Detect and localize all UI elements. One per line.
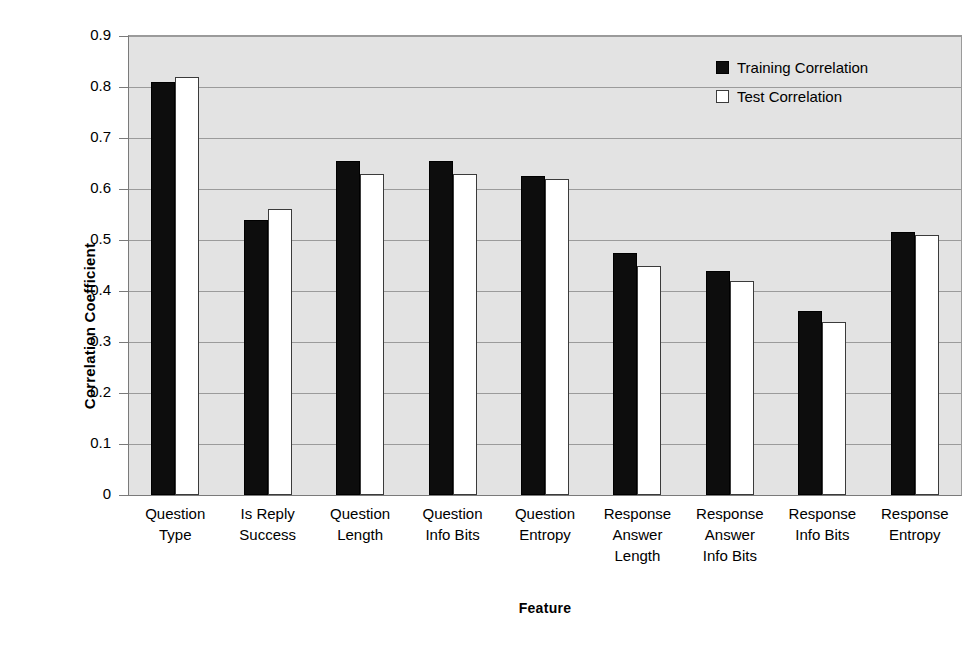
x-axis-tick-label-line: Entropy: [869, 524, 961, 545]
x-axis-tick-label: QuestionEntropy: [499, 503, 591, 545]
bar-group: [129, 36, 221, 495]
y-axis-tick-mark: [119, 189, 128, 190]
x-axis-tick-label: QuestionInfo Bits: [406, 503, 498, 545]
y-axis-tick-mark: [119, 87, 128, 88]
x-axis-tick-label-line: Question: [129, 503, 221, 524]
x-axis-tick-label-line: Length: [314, 524, 406, 545]
bar-training-correlation: [244, 220, 268, 495]
bar-training-correlation: [613, 253, 637, 495]
bar-test-correlation: [822, 322, 846, 495]
x-axis-tick-label: ResponseEntropy: [869, 503, 961, 545]
x-axis-tick-label: QuestionLength: [314, 503, 406, 545]
y-axis-tick-label: 0.1: [31, 434, 111, 451]
y-axis-tick-mark: [119, 138, 128, 139]
y-axis-tick-mark: [119, 342, 128, 343]
y-axis-tick-mark: [119, 240, 128, 241]
x-axis-tick-label-line: Answer: [591, 524, 683, 545]
y-axis-tick-label: 0.2: [31, 383, 111, 400]
y-axis-ticks: 0.90.80.70.60.50.40.30.20.10: [0, 0, 128, 652]
y-axis-tick-label: 0: [31, 485, 111, 502]
bar-test-correlation: [545, 179, 569, 495]
x-axis-tick-label-line: Type: [129, 524, 221, 545]
x-axis-title: Feature: [129, 600, 961, 616]
bar-test-correlation: [637, 266, 661, 496]
bar-training-correlation: [336, 161, 360, 495]
x-axis-tick-label-line: Question: [314, 503, 406, 524]
x-axis-tick-label-line: Answer: [684, 524, 776, 545]
legend: Training CorrelationTest Correlation: [716, 53, 948, 111]
bar-group: [591, 36, 683, 495]
legend-item-label: Test Correlation: [737, 88, 842, 105]
x-axis-tick-label: ResponseAnswerLength: [591, 503, 683, 566]
y-axis-tick-label: 0.5: [31, 230, 111, 247]
bar-training-correlation: [798, 311, 822, 495]
bar-chart: Correlation Coefficient 0.90.80.70.60.50…: [0, 0, 973, 652]
legend-item-label: Training Correlation: [737, 59, 868, 76]
bar-group: [221, 36, 313, 495]
bar-test-correlation: [453, 174, 477, 495]
x-axis-tick-label-line: Response: [591, 503, 683, 524]
x-axis-tick-label-line: Length: [591, 545, 683, 566]
bar-group: [499, 36, 591, 495]
y-axis-tick-label: 0.4: [31, 281, 111, 298]
bar-group: [406, 36, 498, 495]
x-axis-tick-label-line: Info Bits: [406, 524, 498, 545]
x-axis-tick-label-line: Is Reply: [221, 503, 313, 524]
y-axis-tick-label: 0.9: [31, 26, 111, 43]
bar-training-correlation: [429, 161, 453, 495]
x-axis-tick-label-line: Question: [406, 503, 498, 524]
bar-group: [314, 36, 406, 495]
y-axis-tick-label: 0.6: [31, 179, 111, 196]
x-axis-tick-label-line: Info Bits: [776, 524, 868, 545]
legend-item: Test Correlation: [716, 82, 948, 111]
x-axis-tick-label-line: Response: [776, 503, 868, 524]
y-axis-tick-mark: [119, 36, 128, 37]
x-axis-tick-label-line: Success: [221, 524, 313, 545]
x-axis-tick-label-line: Response: [684, 503, 776, 524]
x-axis-tick-label: ResponseInfo Bits: [776, 503, 868, 545]
x-axis-tick-labels: QuestionTypeIs ReplySuccessQuestionLengt…: [129, 503, 961, 593]
y-axis-tick-label: 0.7: [31, 128, 111, 145]
y-axis-tick-mark: [119, 393, 128, 394]
bar-test-correlation: [730, 281, 754, 495]
legend-swatch-training-icon: [716, 61, 729, 74]
y-axis-tick-mark: [119, 291, 128, 292]
bar-training-correlation: [151, 82, 175, 495]
y-axis-tick-label: 0.8: [31, 77, 111, 94]
x-axis-tick-label-line: Response: [869, 503, 961, 524]
bar-training-correlation: [521, 176, 545, 495]
legend-swatch-test-icon: [716, 90, 729, 103]
bar-training-correlation: [706, 271, 730, 495]
bar-test-correlation: [915, 235, 939, 495]
y-axis-tick-mark: [119, 495, 128, 496]
x-axis-tick-label-line: Question: [499, 503, 591, 524]
x-axis-tick-label: Is ReplySuccess: [221, 503, 313, 545]
bar-test-correlation: [175, 77, 199, 495]
legend-item: Training Correlation: [716, 53, 948, 82]
bar-training-correlation: [891, 232, 915, 495]
y-axis-tick-mark: [119, 444, 128, 445]
x-axis-tick-label: QuestionType: [129, 503, 221, 545]
y-axis-tick-label: 0.3: [31, 332, 111, 349]
x-axis-tick-label-line: Info Bits: [684, 545, 776, 566]
bar-test-correlation: [360, 174, 384, 495]
x-axis-tick-label-line: Entropy: [499, 524, 591, 545]
bar-test-correlation: [268, 209, 292, 495]
x-axis-tick-label: ResponseAnswerInfo Bits: [684, 503, 776, 566]
